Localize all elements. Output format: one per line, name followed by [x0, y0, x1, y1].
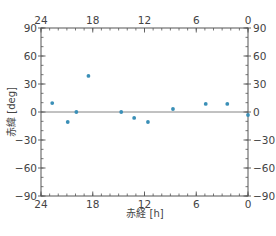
y-tick-label: 90	[24, 22, 37, 34]
data-point	[225, 102, 229, 106]
data-point	[204, 102, 208, 106]
y-tick-label: −30	[15, 134, 37, 146]
x-tick-label: 0	[245, 198, 252, 210]
data-point	[146, 120, 150, 124]
y-tick-label: −90	[253, 190, 275, 202]
y-tick-label: 0	[30, 106, 37, 118]
y-tick-label: −60	[15, 162, 37, 174]
y-axis-right-labels: 9060300−30−60−90	[253, 22, 275, 202]
y-tick-label: −90	[15, 190, 37, 202]
x-axis-top-labels: 24181260	[34, 14, 251, 26]
data-point	[87, 74, 91, 78]
data-point	[171, 107, 175, 111]
data-point	[119, 110, 123, 114]
y-tick-label: 90	[253, 22, 266, 34]
y-tick-label: 30	[24, 78, 37, 90]
x-axis-title: 赤経 [h]	[126, 207, 163, 219]
x-tick-label: 18	[86, 14, 99, 26]
y-tick-label: −30	[253, 134, 275, 146]
data-point	[246, 113, 250, 117]
x-tick-label: 18	[86, 198, 99, 210]
y-axis-left-labels: 9060300−30−60−90	[15, 22, 37, 202]
scatter-chart: 24181260 24181260 9060300−30−60−90 90603…	[0, 0, 276, 236]
data-point	[74, 110, 78, 114]
x-tick-label: 6	[193, 14, 200, 26]
y-tick-label: 30	[253, 78, 266, 90]
data-point	[132, 116, 136, 120]
x-tick-label: 6	[193, 198, 200, 210]
y-tick-label: 0	[253, 106, 260, 118]
data-point	[66, 120, 70, 124]
y-tick-label: 60	[24, 50, 37, 62]
x-tick-label: 12	[138, 14, 151, 26]
y-tick-label: 60	[253, 50, 266, 62]
y-tick-label: −60	[253, 162, 275, 174]
data-point	[50, 101, 54, 105]
x-tick-label: 0	[245, 14, 252, 26]
y-axis-title: 赤緯 [deg]	[5, 87, 17, 137]
data-points	[50, 74, 250, 124]
